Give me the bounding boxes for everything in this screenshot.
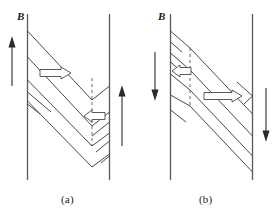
panel-a-caption: (a) bbox=[61, 193, 74, 205]
panel-a-lamellae bbox=[28, 31, 110, 167]
figure-drawing: .ln { stroke: #4a4a4a; stroke-width: 1; … bbox=[0, 0, 279, 220]
panel-b-lamellae bbox=[171, 31, 253, 172]
panel-a-drawing bbox=[9, 14, 125, 180]
scan-speck bbox=[150, 198, 151, 199]
panel-a-motion-arrow-upper bbox=[40, 67, 71, 79]
panel-b-drawing bbox=[152, 14, 269, 180]
panel-a-field-label: B bbox=[17, 10, 24, 22]
scan-speck bbox=[126, 196, 127, 197]
panel-a-field-arrow-right bbox=[119, 87, 125, 146]
panel-b-motion-arrow-upper bbox=[172, 65, 191, 77]
panel-b-caption: (b) bbox=[199, 193, 212, 205]
panel-b-field-arrow-left bbox=[152, 52, 158, 99]
panel-b-field-label: B bbox=[158, 10, 165, 22]
panel-b-field-arrow-right bbox=[263, 88, 269, 140]
figure-container: .ln { stroke: #4a4a4a; stroke-width: 1; … bbox=[0, 0, 279, 220]
panel-a-field-arrow-left bbox=[9, 38, 15, 86]
scan-speck bbox=[57, 7, 58, 8]
panel-b-motion-arrow-lower bbox=[204, 90, 242, 102]
